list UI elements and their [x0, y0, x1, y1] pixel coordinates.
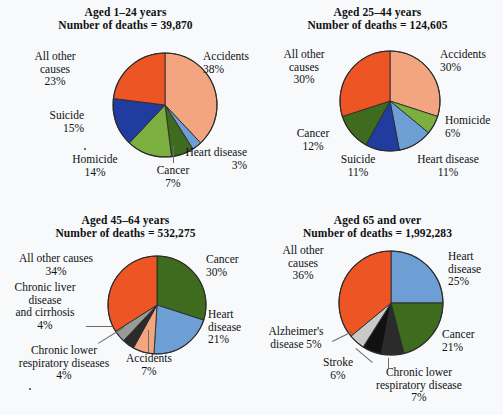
pie-slice: [113, 53, 165, 105]
figure-root: Aged 1–24 years Number of deaths = 39,87…: [0, 0, 503, 415]
pie-chart-aged-25-44: [337, 48, 443, 154]
leader-line-chronic-liver: [86, 326, 112, 327]
panel-subtitle-aged-45-64: Number of deaths = 532,275: [0, 227, 251, 240]
pie-label-all-other-causes: All other causes 30%: [268, 48, 340, 86]
leader-line-accidents: [148, 330, 149, 352]
pie-label-suicide: Suicide 11%: [322, 153, 394, 178]
pie-svg-aged-45-64: [105, 253, 209, 357]
panel-subtitle-aged-25-44: Number of deaths = 124,605: [252, 19, 503, 32]
pie-slice: [391, 251, 443, 303]
pie-label-chronic-liver-disease-and-cirrhosis: Chronic liver disease and cirrhosis 4%: [4, 281, 86, 331]
leader-line-cancer: [173, 145, 174, 163]
pie-label-accidents: Accidents 38%: [203, 50, 249, 75]
panel-title-aged-1-24: Aged 1–24 years: [0, 6, 251, 19]
pie-label-stroke: Stroke 6%: [306, 356, 370, 381]
pie-label-cancer: Cancer 12%: [280, 127, 346, 152]
pie-label-homicide: Homicide 14%: [52, 153, 138, 178]
panel-subtitle-aged-1-24: Number of deaths = 39,870: [0, 19, 251, 32]
panel-title-aged-65-over: Aged 65 and over: [252, 214, 503, 227]
pie-svg-aged-65-over: [336, 248, 446, 358]
pie-svg-aged-25-44: [337, 48, 443, 154]
pie-label-suicide: Suicide 15%: [22, 109, 84, 134]
panel-subtitle-aged-65-over: Number of deaths = 1,992,283: [252, 227, 503, 240]
pie-panel-aged-25-44: Aged 25–44 years Number of deaths = 124,…: [252, 0, 503, 207]
pie-label-heart-disease: Heart disease 11%: [398, 153, 498, 178]
pie-label-all-other-causes: All other causes 36%: [266, 244, 340, 282]
pie-panel-aged-65-over: Aged 65 and over Number of deaths = 1,99…: [252, 208, 503, 415]
pie-label-heart-disease: Heart disease 21%: [208, 308, 241, 346]
pie-label-heart-disease: Heart disease 25%: [448, 250, 481, 288]
pie-label-cancer: Cancer 30%: [206, 253, 239, 278]
pie-label-chronic-lower-respiratory-diseases: Chronic lower respiratory diseases 4%: [2, 344, 126, 382]
pie-label-cancer: Cancer 21%: [442, 328, 475, 353]
pie-chart-aged-65-over: [336, 248, 446, 358]
pie-panel-aged-45-64: Aged 45–64 years Number of deaths = 532,…: [0, 208, 251, 415]
pie-chart-aged-45-64: [105, 253, 209, 357]
panel-title-aged-45-64: Aged 45–64 years: [0, 214, 251, 227]
pie-label-all-other-causes: All other causes 34%: [8, 252, 104, 277]
homicide-leader-dot: [84, 148, 86, 150]
label-speck: [29, 388, 31, 390]
pie-label-accidents: Accidents 30%: [440, 48, 486, 73]
pie-label-alzheimers-disease: Alzheimer's disease 5%: [254, 325, 338, 350]
panel-title-aged-25-44: Aged 25–44 years: [252, 6, 503, 19]
pie-label-all-other-causes: All other causes 23%: [19, 50, 91, 88]
pie-label-homicide: Homicide 6%: [445, 114, 490, 139]
pie-label-cancer: Cancer 7%: [133, 164, 213, 189]
pie-panel-aged-1-24: Aged 1–24 years Number of deaths = 39,87…: [0, 0, 251, 207]
